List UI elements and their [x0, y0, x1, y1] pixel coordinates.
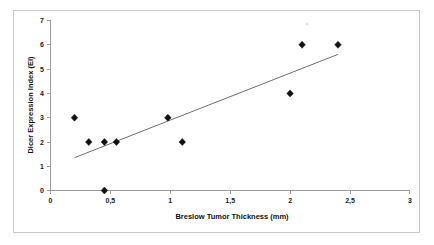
x-tick-label-1: 1 — [168, 197, 172, 204]
data-point — [86, 139, 93, 146]
x-tick-label-2-5: 2,5 — [345, 197, 355, 205]
y-tick-label-7: 7 — [40, 17, 44, 24]
x-axis-title: Breslow Tumor Thickness (mm) — [175, 212, 289, 221]
data-point — [113, 139, 120, 146]
x-tick-label-2: 2 — [288, 197, 292, 204]
x-tick-label-0: 0 — [49, 197, 53, 204]
data-point — [101, 139, 108, 146]
data-point-group — [71, 41, 341, 194]
y-tick-label-2: 2 — [40, 139, 44, 146]
scatter-plot: 7 6 5 4 3 2 1 0 Dicer Expression Index (… — [0, 0, 434, 245]
scan-artifact — [305, 22, 308, 25]
x-tick-label-1-5: 1,5 — [225, 197, 235, 205]
y-tick-label-1: 1 — [40, 163, 44, 170]
y-tick-label-5: 5 — [40, 66, 44, 73]
x-axis: 0 0,5 1 1,5 2 2,5 3 Breslow Tumor Thickn… — [49, 191, 412, 222]
x-tick-label-3: 3 — [408, 197, 412, 204]
data-point — [299, 41, 306, 48]
y-axis: 7 6 5 4 3 2 1 0 Dicer Expression Index (… — [26, 17, 51, 194]
x-tick-label-0-5: 0,5 — [106, 197, 116, 205]
y-axis-title: Dicer Expression Index (EI) — [26, 56, 35, 154]
data-point — [287, 90, 294, 97]
figure-root: 7 6 5 4 3 2 1 0 Dicer Expression Index (… — [0, 0, 434, 245]
data-point — [101, 187, 108, 194]
data-point — [71, 114, 78, 121]
y-tick-label-4: 4 — [40, 90, 44, 97]
y-tick-label-6: 6 — [40, 41, 44, 48]
y-tick-label-3: 3 — [40, 114, 44, 121]
y-tick-label-0: 0 — [40, 187, 44, 194]
data-point — [335, 41, 342, 48]
data-point — [179, 139, 186, 146]
